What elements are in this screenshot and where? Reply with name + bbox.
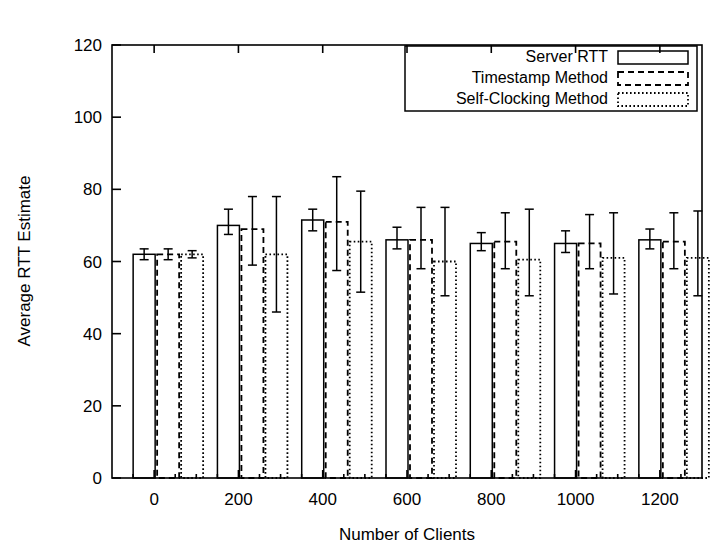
- bar-group-1000-2: [603, 213, 625, 478]
- bar-group-600-2: [434, 207, 456, 478]
- legend-label-1: Timestamp Method: [472, 69, 608, 86]
- bar-timestamp-method: [579, 243, 601, 478]
- y-tick-label: 80: [83, 180, 102, 199]
- x-tick-label: 1000: [557, 490, 595, 509]
- bar-group-600-0: [386, 227, 408, 478]
- bar-server-rtt: [302, 220, 324, 478]
- bar-server-rtt: [133, 254, 155, 478]
- x-axis-title: Number of Clients: [339, 525, 475, 544]
- bar-group-0-2: [181, 251, 203, 478]
- bar-group-1200-1: [663, 213, 685, 478]
- bar-group-200-1: [241, 197, 263, 478]
- y-tick-label: 20: [83, 397, 102, 416]
- bar-self-clocking-method: [181, 254, 203, 478]
- bar-server-rtt: [217, 225, 239, 478]
- x-tick-label: 0: [149, 490, 158, 509]
- bar-server-rtt: [386, 240, 408, 478]
- bar-group-800-1: [494, 213, 516, 478]
- rtt-bar-chart: 020406080100120 020040060080010001200 Av…: [0, 0, 726, 555]
- bar-group-0-1: [157, 249, 179, 478]
- bar-group-1200-2: [687, 211, 709, 478]
- bar-timestamp-method: [241, 229, 263, 478]
- legend-label-0: Server RTT: [526, 48, 609, 65]
- legend-label-2: Self-Clocking Method: [456, 90, 608, 107]
- y-axis-ticks: [112, 45, 121, 478]
- y-tick-label: 60: [83, 253, 102, 272]
- y-tick-label: 0: [93, 469, 102, 488]
- legend-swatch-server-rtt: [618, 51, 688, 64]
- bar-group-800-0: [470, 233, 492, 478]
- bar-group-1000-1: [579, 215, 601, 478]
- x-tick-label: 200: [224, 490, 252, 509]
- bar-group-1000-0: [555, 231, 577, 478]
- x-tick-label: 1200: [641, 490, 679, 509]
- y-axis-title: Average RTT Estimate: [15, 175, 34, 346]
- y-tick-label: 100: [74, 108, 102, 127]
- y-tick-label: 120: [74, 36, 102, 55]
- bar-group-1200-0: [639, 229, 661, 478]
- bar-group-400-0: [302, 209, 324, 478]
- y-axis-tick-labels: 020406080100120: [74, 36, 102, 488]
- bar-timestamp-method: [410, 240, 432, 478]
- chart-container: 020406080100120 020040060080010001200 Av…: [0, 0, 726, 555]
- x-axis-ticks: [133, 45, 681, 478]
- bar-server-rtt: [555, 243, 577, 478]
- bar-group-400-2: [350, 191, 372, 478]
- legend: Server RTT Timestamp Method Self-Clockin…: [405, 46, 697, 111]
- bar-group-200-2: [265, 197, 287, 478]
- bar-server-rtt: [470, 243, 492, 478]
- x-tick-label: 800: [477, 490, 505, 509]
- x-tick-label: 600: [393, 490, 421, 509]
- bar-group-200-0: [217, 209, 239, 478]
- x-axis-tick-labels: 020040060080010001200: [149, 490, 678, 509]
- bar-group-0-0: [133, 249, 155, 478]
- bar-timestamp-method: [157, 254, 179, 478]
- bar-group-600-1: [410, 207, 432, 478]
- bar-timestamp-method: [494, 242, 516, 478]
- bar-group-800-2: [518, 209, 540, 478]
- legend-swatch-timestamp-method: [618, 72, 688, 85]
- x-tick-label: 400: [309, 490, 337, 509]
- bars-layer: [133, 177, 709, 478]
- bar-group-400-1: [326, 177, 348, 478]
- bar-server-rtt: [639, 240, 661, 478]
- y-tick-label: 40: [83, 325, 102, 344]
- legend-swatch-self-clocking-method: [618, 93, 688, 106]
- bar-timestamp-method: [663, 242, 685, 478]
